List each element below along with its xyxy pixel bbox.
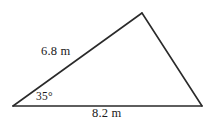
triangle-left-side bbox=[13, 13, 142, 106]
triangle-right-side bbox=[142, 13, 202, 106]
vertex-angle-label: 35° bbox=[36, 91, 53, 103]
triangle-figure: 6.8 m 35° 8.2 m bbox=[0, 0, 213, 121]
bottom-side-length-label: 8.2 m bbox=[92, 107, 121, 120]
left-side-length-label: 6.8 m bbox=[41, 45, 70, 58]
triangle-shape bbox=[0, 0, 213, 121]
